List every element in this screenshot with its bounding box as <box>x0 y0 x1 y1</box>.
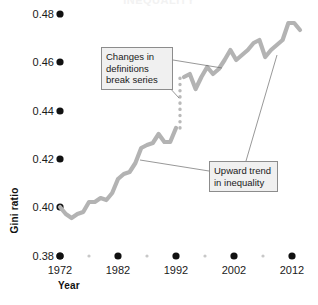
annotation-changes-in-definitions: Changes in definitions break series <box>101 47 173 90</box>
y-tick-label-3: 0.42 <box>14 154 54 165</box>
gini-ratio-chart: INEQUALITY <box>0 0 318 305</box>
x-tick-label-0: 1972 <box>37 265 83 276</box>
y-tick-label-1: 0.46 <box>14 57 54 68</box>
x-axis-title: Year <box>58 280 80 291</box>
y-tick-label-2: 0.44 <box>14 106 54 117</box>
y-axis-title: Gini ratio <box>9 181 20 241</box>
x-tick-label-1: 1982 <box>95 265 141 276</box>
x-tick-label-4: 2012 <box>269 265 315 276</box>
x-tick-label-3: 2002 <box>211 265 257 276</box>
data-line-post-break <box>184 23 300 89</box>
x-axis-tick-marks <box>56 252 295 259</box>
y-tick-label-0: 0.48 <box>14 9 54 20</box>
data-line-pre-break <box>60 128 176 218</box>
y-tick-label-4: 0.40 <box>14 202 54 213</box>
y-axis-tick-marks <box>56 10 63 259</box>
annotation-upward-trend: Upward trend in inequality <box>209 161 278 192</box>
x-tick-label-2: 1992 <box>153 265 199 276</box>
y-tick-label-5: 0.38 <box>14 251 54 262</box>
